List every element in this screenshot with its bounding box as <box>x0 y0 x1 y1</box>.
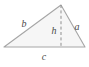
triangle-diagram-svg: b a h c <box>0 0 89 67</box>
base-label-c: c <box>42 51 47 62</box>
side-label-b: b <box>22 18 27 29</box>
height-label-h: h <box>52 25 57 36</box>
side-label-a: a <box>75 21 80 32</box>
triangle-figure: b a h c <box>0 0 89 67</box>
